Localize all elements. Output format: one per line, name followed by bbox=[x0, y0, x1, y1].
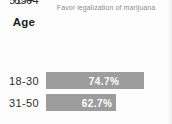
bar-value-label: 62.7% bbox=[82, 97, 112, 108]
age-column-header: Age bbox=[4, 16, 44, 28]
bar-row: 31-50 62.7% bbox=[0, 94, 172, 111]
bar-value-label: 35% bbox=[0, 0, 11, 6]
chart-title: Favor legalization of marijuana bbox=[46, 3, 166, 12]
infographic-bar-chart: Favor legalization of marijuana Age 18-3… bbox=[0, 0, 172, 124]
age-label: 18-30 bbox=[4, 72, 44, 89]
bar-value-label: 74.7% bbox=[89, 75, 119, 86]
bar-row: 18-30 74.7% bbox=[0, 72, 172, 89]
age-label: 31-50 bbox=[4, 94, 44, 111]
